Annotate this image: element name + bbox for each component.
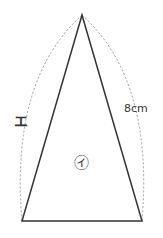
label-side-right: 8cm [124, 102, 148, 115]
label-side-left: エ [14, 110, 28, 130]
triangle [22, 15, 142, 221]
label-inner: ㋑ [74, 151, 89, 172]
